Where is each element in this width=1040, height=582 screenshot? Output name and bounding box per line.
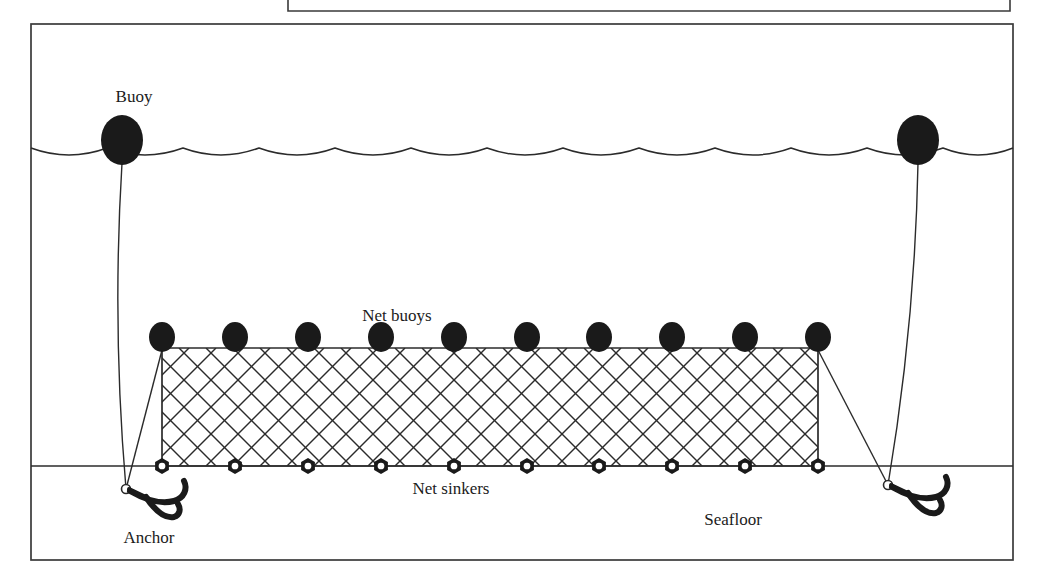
right-surface-buoy [897,115,939,165]
sinker-hole [305,463,312,470]
net-buoy-1 [149,322,175,352]
sinker-hole [451,463,458,470]
label-seafloor: Seafloor [704,510,762,529]
net-buoy-7 [586,322,612,352]
net-buoy-9 [732,322,758,352]
diagram-canvas: Buoy Net buoys Net sinkers Anchor Seaflo… [0,0,1040,582]
label-net-buoys: Net buoys [362,306,431,325]
net-buoy-3 [295,322,321,352]
net-buoy-8 [659,322,685,352]
label-buoy: Buoy [116,87,153,106]
net-buoy-5 [441,322,467,352]
sinker-hole [159,463,166,470]
sinker-hole [596,463,603,470]
sinker-hole [669,463,676,470]
canvas-background [0,0,1040,582]
sinker-hole [232,463,239,470]
label-anchor: Anchor [124,528,175,547]
label-net-sinkers: Net sinkers [413,479,490,498]
net-buoy-4 [368,322,394,352]
fishing-gear-diagram: Buoy Net buoys Net sinkers Anchor Seaflo… [0,0,1040,582]
sinker-hole [742,463,749,470]
left-surface-buoy [101,115,143,165]
net-buoy-10 [805,322,831,352]
sinker-hole [815,463,822,470]
sinker-hole [524,463,531,470]
net-buoy-6 [514,322,540,352]
sinker-hole [378,463,385,470]
net-buoy-2 [222,322,248,352]
